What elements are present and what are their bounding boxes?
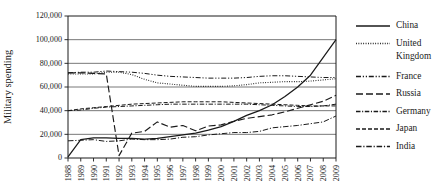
x-tick-label: 2006	[294, 165, 303, 181]
x-tick-label: 1997	[179, 165, 188, 181]
x-tick-label: 1995	[153, 165, 162, 181]
y-tick-label: 20,000	[40, 130, 62, 139]
x-tick-label: 2007	[306, 165, 315, 181]
y-axis-ticks: 020,00040,00060,00080,000100,000120,000	[36, 11, 68, 162]
legend-label-united-kingdom: Kingdom	[396, 51, 432, 61]
legend-label-india: India	[396, 141, 415, 151]
x-tick-label: 2000	[217, 165, 226, 181]
y-tick-label: 40,000	[40, 106, 62, 115]
x-tick-label: 2002	[243, 165, 252, 181]
chart-container: 020,00040,00060,00080,000100,000120,000 …	[0, 0, 444, 187]
x-tick-label: 1994	[141, 165, 150, 181]
legend-label-japan: Japan	[396, 123, 418, 133]
legend-label-united-kingdom: United	[396, 38, 422, 48]
y-tick-label: 100,000	[36, 35, 62, 44]
x-tick-label: 1993	[128, 165, 137, 181]
x-tick-label: 1996	[166, 165, 175, 181]
legend: ChinaUnitedKingdomFranceRussiaGermanyJap…	[356, 20, 432, 151]
x-tick-label: 1992	[115, 165, 124, 181]
x-axis-ticks: 1988198919901991199219931994199519961997…	[64, 158, 341, 181]
y-axis-title: Military spending	[2, 50, 13, 124]
x-tick-label: 1991	[102, 165, 111, 181]
y-tick-label: 0	[58, 153, 62, 162]
legend-label-china: China	[396, 20, 418, 30]
x-tick-label: 2001	[230, 165, 239, 181]
x-tick-label: 1989	[77, 165, 86, 181]
legend-label-france: France	[396, 71, 421, 81]
x-tick-label: 1988	[64, 165, 73, 181]
y-tick-label: 120,000	[36, 11, 62, 20]
military-spending-line-chart: 020,00040,00060,00080,000100,000120,000 …	[0, 0, 444, 187]
x-tick-label: 1999	[204, 165, 213, 181]
legend-label-russia: Russia	[396, 88, 421, 98]
x-tick-label: 1998	[192, 165, 201, 181]
y-tick-label: 60,000	[40, 82, 62, 91]
x-tick-label: 2003	[255, 165, 264, 181]
x-tick-label: 2004	[268, 165, 277, 181]
x-tick-label: 2009	[332, 165, 341, 181]
y-tick-label: 80,000	[40, 59, 62, 68]
legend-label-germany: Germany	[396, 106, 431, 116]
x-tick-label: 2008	[319, 165, 328, 181]
x-tick-label: 1990	[90, 165, 99, 181]
x-tick-label: 2005	[281, 165, 290, 181]
